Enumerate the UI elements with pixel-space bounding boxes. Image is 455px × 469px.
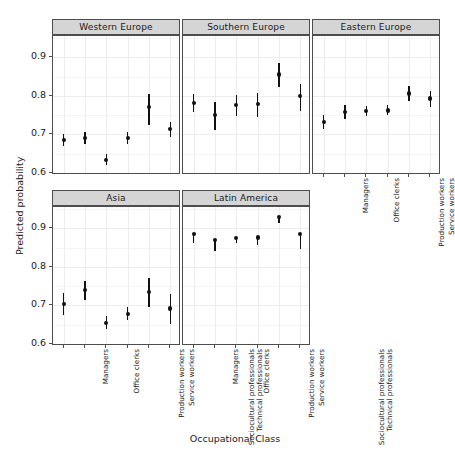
gridline-minor <box>183 115 309 116</box>
x-tick-mark <box>63 345 64 348</box>
gridline-minor <box>53 248 179 249</box>
plot-area <box>52 206 180 345</box>
x-tick-mark <box>278 345 279 348</box>
facet-strip-label: Latin America <box>182 190 310 206</box>
gridline-minor <box>53 209 179 210</box>
facet-strip-label: Eastern Europe <box>312 19 440 35</box>
x-tick-label: Managers <box>101 349 110 384</box>
y-tick-mark <box>49 133 52 134</box>
x-tick-label: Office clerks <box>132 349 141 394</box>
gridline-minor <box>183 286 309 287</box>
data-point <box>147 290 151 294</box>
gridline-minor <box>313 38 439 39</box>
gridline-minor <box>183 77 309 78</box>
data-point <box>126 312 130 316</box>
gridline-major <box>183 344 309 345</box>
x-tick-mark <box>323 174 324 177</box>
gridline-minor <box>53 115 179 116</box>
gridline-major <box>53 134 179 135</box>
gridline-minor <box>313 154 439 155</box>
gridline-vertical <box>279 36 280 173</box>
data-point <box>213 238 217 242</box>
plot-area <box>182 206 310 345</box>
gridline-major <box>183 173 309 174</box>
facet-strip-label: Asia <box>52 190 180 206</box>
gridline-major <box>183 267 309 268</box>
gridline-vertical <box>409 36 410 173</box>
gridline-major <box>53 344 179 345</box>
facet-panel: Latin America <box>182 190 310 345</box>
data-point <box>277 72 281 76</box>
y-tick-label: 0.8 <box>22 260 46 271</box>
x-tick-label: Service workers <box>187 349 196 406</box>
x-tick-label: Managers <box>231 349 240 384</box>
gridline-minor <box>183 325 309 326</box>
plot-area <box>182 35 310 174</box>
facet-panel: Southern Europe <box>182 19 310 174</box>
facet-title: Southern Europe <box>207 22 285 32</box>
gridline-major <box>53 173 179 174</box>
data-point <box>364 109 368 113</box>
x-tick-label: Technical professionals <box>385 349 394 432</box>
gridline-minor <box>53 77 179 78</box>
x-tick-label: Production workers <box>307 349 316 418</box>
data-point <box>407 91 411 95</box>
data-point <box>277 215 281 219</box>
x-tick-label: Office clerks <box>262 349 271 394</box>
data-point <box>256 235 260 239</box>
data-point <box>168 306 172 310</box>
gridline-major <box>53 228 179 229</box>
gridline-major <box>53 267 179 268</box>
gridline-vertical <box>106 36 107 173</box>
facet-panel: Eastern Europe <box>312 19 440 174</box>
x-tick-mark <box>344 174 345 177</box>
y-tick-mark <box>49 95 52 96</box>
data-point <box>256 102 260 106</box>
facet-title: Western Europe <box>79 22 153 32</box>
gridline-vertical <box>64 207 65 344</box>
y-tick-mark <box>49 227 52 228</box>
data-point <box>234 236 238 240</box>
gridline-major <box>53 57 179 58</box>
gridline-vertical <box>85 36 86 173</box>
plot-area <box>52 35 180 174</box>
data-point <box>168 127 172 131</box>
error-bar <box>300 234 301 249</box>
y-tick-label: 0.7 <box>22 127 46 138</box>
gridline-vertical <box>300 207 301 344</box>
gridline-major <box>313 96 439 97</box>
gridline-minor <box>53 154 179 155</box>
y-tick-label: 0.9 <box>22 50 46 61</box>
data-point <box>192 101 196 105</box>
gridline-vertical <box>170 36 171 173</box>
gridline-major <box>313 173 439 174</box>
x-tick-label: Service workers <box>317 349 326 406</box>
gridline-vertical <box>236 207 237 344</box>
gridline-minor <box>313 77 439 78</box>
x-tick-mark <box>169 345 170 348</box>
facet-title: Latin America <box>214 193 278 203</box>
data-point <box>428 96 432 100</box>
data-point <box>104 158 108 162</box>
x-tick-mark <box>214 345 215 348</box>
data-point <box>322 120 326 124</box>
gridline-major <box>183 134 309 135</box>
data-point <box>234 103 238 107</box>
gridline-minor <box>183 209 309 210</box>
gridline-minor <box>183 38 309 39</box>
x-tick-label: Office clerks <box>392 178 401 223</box>
gridline-minor <box>183 248 309 249</box>
y-tick-label: 0.8 <box>22 89 46 100</box>
x-tick-mark <box>429 174 430 177</box>
y-tick-mark <box>49 56 52 57</box>
facet-strip-label: Western Europe <box>52 19 180 35</box>
gridline-major <box>183 228 309 229</box>
y-tick-mark <box>49 304 52 305</box>
x-tick-mark <box>299 345 300 348</box>
data-point <box>147 105 151 109</box>
x-tick-label: Service workers <box>447 178 455 235</box>
gridline-vertical <box>215 207 216 344</box>
gridline-vertical <box>366 36 367 173</box>
data-point <box>298 232 302 236</box>
facet-panel: Asia <box>52 190 180 345</box>
